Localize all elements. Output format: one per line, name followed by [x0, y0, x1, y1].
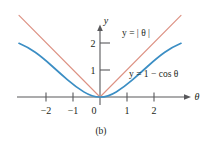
- figure-panel: −2 −1 0 1 2 1 2 y θ y = | θ | y = 1 − co…: [0, 0, 206, 142]
- y-tick-label-1: 1: [91, 65, 96, 76]
- chart-canvas: −2 −1 0 1 2 1 2 y θ y = | θ | y = 1 − co…: [0, 0, 206, 142]
- x-tick-label--1: −1: [68, 105, 79, 116]
- curve-label-one-minus-cos: y = 1 − cos θ: [129, 69, 179, 79]
- y-axis-label: y: [103, 15, 109, 26]
- x-tick-label-0: 0: [92, 105, 97, 116]
- x-axis-label: θ: [195, 91, 200, 102]
- x-tick-label-1: 1: [125, 105, 130, 116]
- figure-caption: (b): [95, 126, 106, 137]
- x-tick-label--2: −2: [41, 105, 52, 116]
- curve-label-abs-theta: y = | θ |: [122, 28, 150, 38]
- y-tick-label-2: 2: [91, 38, 96, 49]
- x-tick-label-2: 2: [152, 105, 157, 116]
